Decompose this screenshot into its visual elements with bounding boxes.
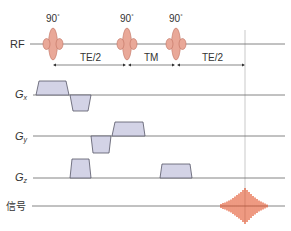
interval-tm: TM <box>144 52 158 63</box>
interval-te-half-1: TE/2 <box>80 52 102 63</box>
signal-label: 信号 <box>6 201 26 212</box>
gy-negative-lobe <box>91 136 111 153</box>
gx-negative-lobe <box>70 95 91 111</box>
gz-label: Gz <box>15 171 28 184</box>
gz-lobe-2 <box>160 164 192 178</box>
gx-readout-prephase-lobe <box>36 81 69 95</box>
gx-label: Gx <box>15 88 28 101</box>
rf-pulse-3 <box>166 28 186 60</box>
pulse-3-flip-label: 90° <box>169 13 183 24</box>
pulse-sequence-diagram: RF 90° 90° 90° TE/2 TM TE/2 Gx Gy <box>0 0 291 231</box>
gz-lobe-1 <box>70 159 91 178</box>
gy-positive-lobe <box>112 122 145 136</box>
interval-te-half-2: TE/2 <box>202 52 224 63</box>
pulse-2-flip-label: 90° <box>120 13 134 24</box>
pulse-1-flip-label: 90° <box>46 13 60 24</box>
rf-pulse-1 <box>43 28 63 60</box>
gy-label: Gy <box>15 130 28 144</box>
rf-pulse-2 <box>117 28 137 60</box>
rf-label: RF <box>10 38 25 50</box>
